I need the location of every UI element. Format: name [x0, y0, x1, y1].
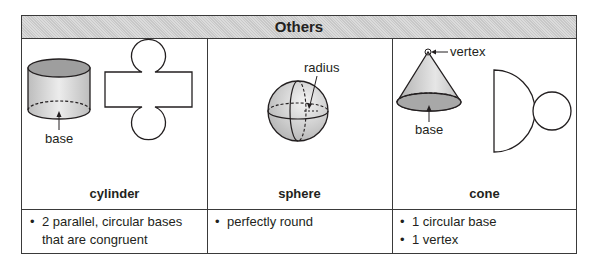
- cylinder-properties: 2 parallel, circular basesthat are congr…: [26, 213, 206, 249]
- cylinder-base-label: base: [45, 131, 73, 146]
- property-item: 1 vertex: [396, 231, 576, 249]
- row-divider: [22, 209, 576, 210]
- sphere-illustration: radius: [207, 38, 392, 188]
- property-item: 2 parallel, circular basesthat are congr…: [26, 213, 206, 249]
- cone-base-label: base: [415, 122, 443, 137]
- sphere-radius-label: radius: [304, 60, 340, 75]
- cone-properties: 1 circular base 1 vertex: [396, 213, 576, 249]
- table-title: Others: [22, 16, 576, 39]
- cylinder-illustration: base: [22, 38, 207, 188]
- property-item: perfectly round: [211, 213, 391, 231]
- shape-name-sphere: sphere: [207, 186, 392, 201]
- shape-name-cylinder: cylinder: [22, 186, 207, 201]
- sphere-properties: perfectly round: [211, 213, 391, 231]
- property-item: 1 circular base: [396, 213, 576, 231]
- shape-name-cone: cone: [392, 186, 577, 201]
- cone-vertex-label: vertex: [450, 44, 486, 59]
- shapes-table: Others base cylinder 2 parallel, circula…: [21, 15, 577, 254]
- cone-illustration: vertex base: [392, 38, 577, 188]
